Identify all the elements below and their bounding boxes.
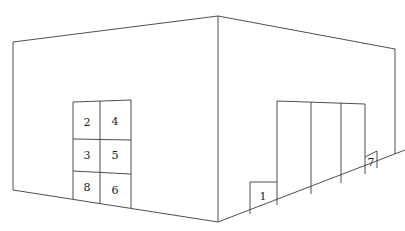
panel-label: 4 bbox=[112, 115, 119, 128]
right-wall-panels: 1 7 bbox=[250, 101, 377, 214]
walls bbox=[13, 16, 405, 222]
left-wall-top-edge bbox=[13, 16, 218, 42]
panel-label: 6 bbox=[112, 184, 119, 197]
grid-top bbox=[73, 100, 131, 102]
panel-label: 1 bbox=[260, 190, 267, 203]
panel-label: 3 bbox=[84, 149, 91, 162]
panels-top-edge bbox=[277, 101, 365, 104]
grid-row-divider-2 bbox=[73, 171, 131, 174]
left-wall-grid: 2 4 3 5 8 6 bbox=[73, 100, 131, 208]
panel-label: 2 bbox=[84, 116, 91, 129]
panel-label: 7 bbox=[368, 156, 375, 169]
panel-label: 5 bbox=[112, 149, 119, 162]
room-corner-diagram: 2 4 3 5 8 6 1 7 bbox=[0, 0, 405, 231]
panel-label: 8 bbox=[84, 181, 91, 194]
right-wall-top-edge bbox=[218, 16, 395, 49]
grid-row-divider-1 bbox=[73, 139, 131, 140]
